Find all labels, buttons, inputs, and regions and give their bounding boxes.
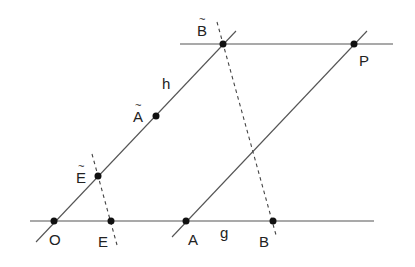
point-b <box>270 218 277 225</box>
dashed-btilde-b <box>217 22 276 235</box>
label-g: g <box>220 224 228 241</box>
label-a: A <box>188 231 198 248</box>
geometry-diagram: O E A g B P h B ~ A ~ E ~ <box>0 0 415 267</box>
label-o: O <box>49 231 61 248</box>
point-p <box>351 41 358 48</box>
point-o <box>51 218 58 225</box>
tilde-mark-etilde: ~ <box>78 160 84 172</box>
label-h: h <box>162 75 170 92</box>
point-a <box>183 218 190 225</box>
tilde-mark-atilde: ~ <box>135 99 141 111</box>
label-b: B <box>259 233 269 250</box>
dashed-etilde-e <box>92 154 117 245</box>
tilde-mark-btilde: ~ <box>199 13 205 25</box>
point-etilde <box>95 173 102 180</box>
line-ap <box>172 31 367 237</box>
point-btilde <box>220 41 227 48</box>
point-atilde <box>153 113 160 120</box>
line-h <box>36 31 236 242</box>
label-e: E <box>98 233 108 250</box>
label-p: P <box>359 52 369 69</box>
point-e <box>108 218 115 225</box>
